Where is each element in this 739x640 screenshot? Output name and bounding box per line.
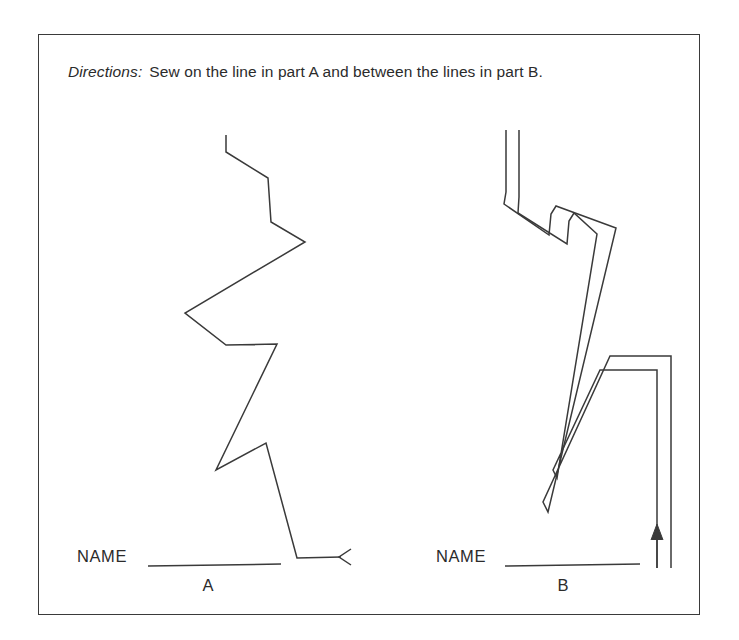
worksheet-page: Directions:Sew on the line in part A and… [0, 0, 739, 640]
directions-text: Directions:Sew on the line in part A and… [68, 62, 678, 82]
part-a-name-label: NAME [77, 547, 127, 566]
part-b-name-label: NAME [436, 547, 486, 566]
directions-label: Directions: [68, 63, 142, 80]
worksheet-border [38, 34, 700, 615]
directions-body: Sew on the line in part A and between th… [149, 63, 543, 80]
part-b-letter: B [548, 576, 578, 595]
part-a-letter: A [193, 576, 223, 595]
